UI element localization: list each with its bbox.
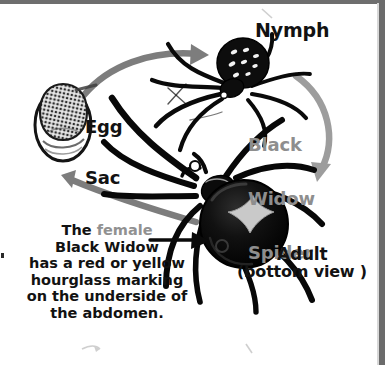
- caption-female-hourglass: The female Black Widow has a red or yell…: [12, 222, 202, 321]
- caption-line-6: the abdomen.: [12, 305, 202, 322]
- caption-line-3: has a red or yellow: [12, 255, 202, 272]
- label-adult-view: (bottom view ): [237, 264, 367, 281]
- caption-highlight-female: female: [97, 222, 153, 238]
- caption-line-1: The female: [12, 222, 202, 239]
- label-species-line1: Black: [248, 136, 315, 154]
- label-egg-sac: Egg Sac: [85, 84, 122, 221]
- black-widow-life-cycle-diagram: Nymph Egg Sac Black Widow Spider Adult (…: [0, 0, 385, 365]
- label-species-line2: Widow: [248, 190, 315, 208]
- caption-line-5: on the underside of: [12, 288, 202, 305]
- label-nymph: Nymph: [255, 21, 329, 41]
- caption-line-1-prefix: The: [62, 222, 97, 238]
- label-egg-sac-line2: Sac: [85, 169, 122, 186]
- label-egg-sac-line1: Egg: [85, 118, 122, 135]
- caption-line-4: hourglass marking: [12, 272, 202, 289]
- caption-line-2: Black Widow: [12, 239, 202, 256]
